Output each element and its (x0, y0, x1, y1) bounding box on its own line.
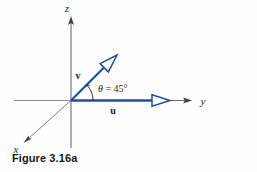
figure-container: z y x θ = 45° v u Figure 3.16a (0, 0, 257, 172)
angle-equals: = (103, 83, 114, 94)
vector-u-arrowhead (152, 95, 170, 106)
angle-arc (87, 85, 93, 101)
vector-u-label: u (110, 105, 116, 116)
angle-value: 45° (114, 83, 128, 94)
angle-label: θ = 45° (98, 83, 128, 94)
x-axis-line (28, 101, 71, 140)
y-axis-label: y (200, 95, 206, 107)
figure-caption: Figure 3.16a (12, 152, 77, 164)
vector-diagram: z y x θ = 45° v u (0, 0, 257, 172)
vector-v-label: v (76, 70, 81, 81)
z-axis-label: z (64, 2, 70, 14)
